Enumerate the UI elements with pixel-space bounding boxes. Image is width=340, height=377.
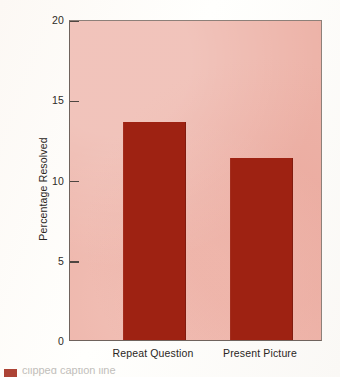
caption-color-swatch (4, 369, 17, 377)
y-tick-label: 20 (24, 14, 64, 26)
y-tick-label: 5 (24, 255, 64, 267)
y-tick-mark (70, 101, 79, 103)
figure-caption-strip: clipped caption line (0, 368, 340, 377)
y-tick-label: 15 (24, 94, 64, 106)
chart-page: Percentage Resolved 05101520 Repeat Ques… (0, 0, 340, 377)
y-tick-mark (70, 181, 79, 183)
x-category-label-2: Present Picture (223, 347, 297, 359)
y-tick-label: 10 (24, 175, 64, 187)
bar-2 (230, 158, 293, 340)
plot-area (69, 20, 322, 341)
y-tick-label: 0 (24, 335, 64, 347)
y-tick-mark (70, 261, 79, 263)
x-category-label-1: Repeat Question (112, 347, 193, 359)
y-tick-mark (70, 20, 79, 22)
bar-1 (123, 122, 186, 340)
y-axis-title: Percentage Resolved (37, 99, 49, 279)
caption-text: clipped caption line (22, 368, 116, 376)
